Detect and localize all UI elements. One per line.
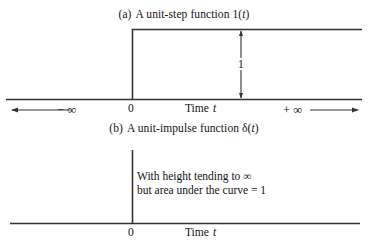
caption-a-suffix: ) xyxy=(246,8,250,20)
panel-b-time-axis-label: Timet xyxy=(185,226,216,238)
panel-b-note-line-2: but area under the curve = 1 xyxy=(137,184,266,198)
caption-b-suffix: ) xyxy=(255,122,259,134)
panel-b-origin-label: 0 xyxy=(128,226,134,238)
panel-b-time-variable: t xyxy=(213,226,216,238)
caption-b-text: A unit-impulse function δ( xyxy=(127,122,252,134)
figure-unit-step-and-impulse: (a)A unit-step function 1(t) (b)A unit-i… xyxy=(0,0,368,242)
caption-panel-a: (a)A unit-step function 1(t) xyxy=(0,8,368,20)
panel-b-time-word: Time xyxy=(185,226,209,238)
panel-b-description-note: With height tending to ∞ but area under … xyxy=(137,170,266,197)
panel-a-negative-infinity-label: − ∞ xyxy=(57,103,76,118)
panel-a-time-word: Time xyxy=(185,102,209,114)
panel-a-time-variable: t xyxy=(213,102,216,114)
panel-a-origin-label: 0 xyxy=(128,102,134,114)
caption-panel-b: (b)A unit-impulse function δ(t) xyxy=(0,122,368,134)
panel-a-time-axis-label: Timet xyxy=(185,102,216,114)
panel-a-positive-infinity-label: + ∞ xyxy=(283,103,302,118)
caption-a-label: (a) xyxy=(118,8,131,20)
caption-b-label: (b) xyxy=(109,122,123,134)
panel-a-height-value-label: 1 xyxy=(236,58,246,70)
panel-unit-step: (a)A unit-step function 1(t) xyxy=(0,0,368,121)
caption-a-text: A unit-step function 1( xyxy=(136,8,243,20)
panel-b-note-line-1: With height tending to ∞ xyxy=(137,170,266,184)
